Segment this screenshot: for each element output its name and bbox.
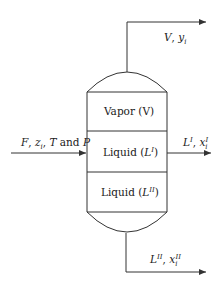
liquid1-prefix: Liquid (	[103, 146, 144, 158]
feed-temperature: T	[49, 136, 56, 148]
liquid2-suffix: )	[155, 186, 159, 198]
liquid1-out-symbol: L	[183, 136, 190, 148]
liquid2-out-comp-sup: II	[175, 253, 181, 261]
liquid1-out-comp-sup: I	[206, 136, 209, 144]
vessel-bottom-cap	[87, 212, 167, 232]
vapor-symbol: V	[164, 31, 172, 43]
feed-symbol: F	[21, 136, 28, 148]
stream-label-feed: F, zi, T and P	[21, 137, 90, 148]
liquid1-out-sup: I	[190, 136, 193, 144]
vapor-zone-text: Vapor (V)	[104, 105, 154, 117]
vapor-outlet-line	[127, 22, 206, 72]
feed-and: and	[60, 136, 80, 148]
liquid1-out-comp-sub: i	[205, 143, 207, 151]
stream-label-liquid2: LII, xiII	[150, 254, 181, 265]
zone-label-vapor: Vapor (V)	[104, 106, 154, 117]
flash-separator-diagram: Vapor (V) Liquid (LI) Liquid (LII) V, yi…	[0, 0, 222, 291]
liquid2-out-symbol: L	[150, 253, 157, 265]
liquid2-out-comp-sub: i	[175, 260, 177, 268]
liquid2-out-sup: II	[157, 253, 163, 261]
stream-label-vapor: V, yi	[164, 32, 186, 43]
feed-pressure: P	[83, 136, 90, 148]
vapor-comp-sub: i	[184, 38, 186, 46]
liquid2-prefix: Liquid (	[101, 186, 142, 198]
liquid1-suffix: )	[154, 146, 158, 158]
feed-comp-sub: i	[41, 143, 43, 151]
zone-label-liquid1: Liquid (LI)	[103, 147, 158, 158]
stream-label-liquid1: LI, xiI	[183, 137, 208, 148]
vessel-top-cap	[87, 72, 167, 92]
zone-label-liquid2: Liquid (LII)	[101, 187, 159, 198]
